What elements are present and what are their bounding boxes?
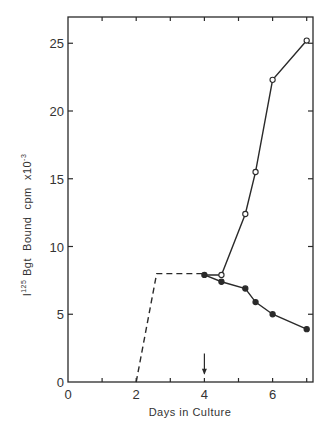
y-tick-label: 20: [50, 104, 64, 119]
filled-marker: [243, 286, 248, 291]
y-tick-label: 25: [50, 36, 64, 51]
open-marker: [243, 211, 248, 216]
data-series: [136, 38, 309, 382]
filled-marker: [202, 272, 207, 277]
y-tick-label: 15: [50, 172, 64, 187]
y-tick-label: 10: [50, 240, 64, 255]
open-marker: [253, 169, 258, 174]
y-label-sup1: 125: [20, 280, 27, 293]
arrow-down-icon: [202, 369, 207, 375]
series-line: [204, 41, 306, 275]
y-tick-label: 0: [57, 375, 64, 390]
filled-marker: [219, 279, 224, 284]
x-tick-label: 4: [201, 387, 208, 402]
filled-marker: [270, 312, 275, 317]
y-axis-label: I125 Bgt Bound cpm x10-3: [20, 154, 33, 297]
open-marker: [304, 38, 309, 43]
open-marker: [270, 77, 275, 82]
x-axis-label: Days in Culture: [149, 406, 232, 418]
filled-marker: [253, 299, 258, 304]
y-axis-ticks: 0510152025: [50, 36, 313, 390]
x-tick-label: 2: [133, 387, 140, 402]
y-label-sup2: -3: [20, 154, 27, 161]
series-line: [136, 274, 204, 382]
open-marker: [219, 272, 224, 277]
y-label-main: Bgt Bound cpm x10: [21, 161, 33, 280]
plot-border: [68, 17, 313, 382]
x-tick-label: 0: [64, 387, 71, 402]
annotations: [202, 354, 207, 375]
filled-marker: [304, 327, 309, 332]
x-axis-ticks: 0246: [64, 17, 306, 402]
chart: 0246 0510152025 Days in Culture I125 Bgt…: [0, 0, 330, 432]
x-tick-label: 6: [269, 387, 276, 402]
y-tick-label: 5: [57, 307, 64, 322]
plot-frame: [68, 17, 313, 382]
